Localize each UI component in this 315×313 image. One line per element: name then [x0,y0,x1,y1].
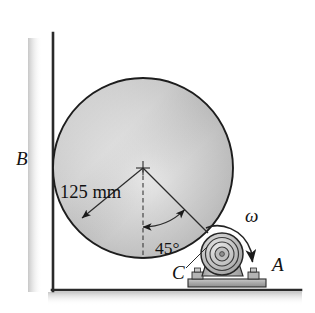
wall-shadow [28,38,42,292]
caster-wheel-axle [220,252,225,257]
radius-dimension-label: 125 mm [60,182,122,202]
mechanics-figure: 125 mm 45° [0,0,315,313]
angular-velocity-label: ω [245,205,258,226]
figure-canvas: 125 mm 45° [0,0,315,313]
label-C: C [172,262,185,283]
angle-dimension-label: 45° [155,238,180,258]
label-A: A [270,254,284,275]
caster-base-plate [188,279,266,287]
label-B: B [16,148,28,169]
floor-shadow [48,292,302,305]
